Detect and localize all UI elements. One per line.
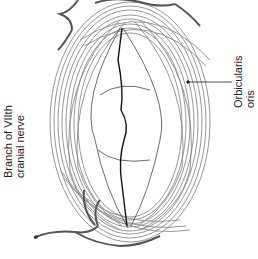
nerve-label: Branch of VIIth cranial nerve bbox=[2, 105, 26, 178]
muscle-label: Orbicularis oris bbox=[232, 55, 256, 108]
nerve-label-line1: Branch of VIIth bbox=[2, 105, 14, 178]
muscle-fibers bbox=[50, 2, 210, 242]
muscle-label-line1: Orbicularis bbox=[232, 55, 244, 108]
nerve-label-line2: cranial nerve bbox=[14, 105, 26, 178]
orbicularis-oris-diagram bbox=[0, 0, 258, 259]
muscle-label-line2: oris bbox=[244, 55, 256, 108]
mouth-opening bbox=[118, 28, 127, 226]
